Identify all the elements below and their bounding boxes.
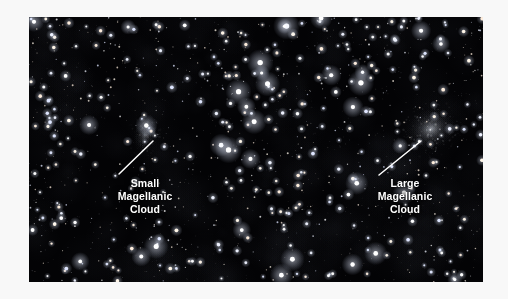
leader-line-lmc [379, 141, 421, 175]
page-root: Small Magellanic Cloud Large Magellanic … [0, 0, 508, 299]
astrophoto: Small Magellanic Cloud Large Magellanic … [29, 17, 483, 282]
leader-line-smc [119, 141, 153, 174]
annotation-leader-lines [29, 17, 483, 282]
